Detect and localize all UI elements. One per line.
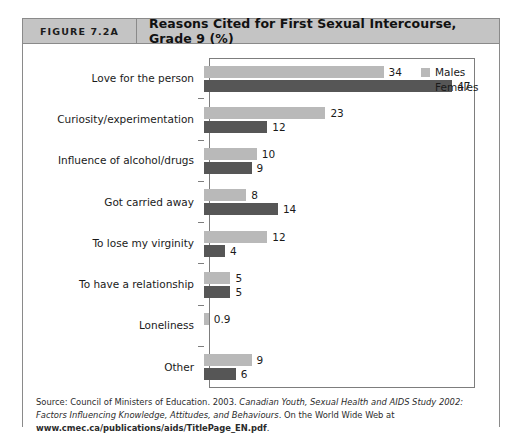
- bar-value-label: 0.9: [214, 313, 231, 325]
- bar-females: 14: [204, 203, 296, 215]
- legend-label-females: Females: [435, 81, 478, 93]
- bar-row: To have a relationship55: [23, 264, 501, 305]
- bar-males: 8: [204, 189, 258, 201]
- bar-males: 34: [204, 66, 402, 78]
- bar-females: 5: [204, 286, 242, 298]
- bar-rect: [204, 189, 246, 201]
- category-label: Influence of alcohol/drugs: [23, 155, 203, 167]
- bar-value-label: 8: [251, 189, 258, 201]
- figure-body: Love for the person3447Curiosity/experim…: [23, 44, 499, 427]
- category-label: Love for the person: [23, 73, 203, 85]
- bar-value-label: 9: [257, 354, 264, 366]
- bar-row: Other96: [23, 347, 501, 388]
- chart-legend: Males Females: [421, 66, 491, 96]
- bar-males: 5: [204, 272, 242, 284]
- source-suffix: .: [267, 423, 270, 433]
- figure-header: FIGURE 7.2A Reasons Cited for First Sexu…: [23, 19, 499, 44]
- legend-label-males: Males: [435, 66, 465, 78]
- bar-males: 9: [204, 354, 263, 366]
- bar-females: 12: [204, 121, 286, 133]
- category-label: Other: [23, 362, 203, 374]
- source-prefix: Source: Council of Ministers of Educatio…: [36, 397, 239, 407]
- bar-group: 96: [203, 347, 471, 388]
- bar-group: 814: [203, 182, 471, 223]
- bar-row: To lose my virginity124: [23, 223, 501, 264]
- bar-group: 109: [203, 141, 471, 182]
- bar-females: 6: [204, 368, 247, 380]
- bar-value-label: 10: [262, 148, 275, 160]
- bar-row: Got carried away814: [23, 182, 501, 223]
- category-label: To have a relationship: [23, 279, 203, 291]
- bar-rect: [204, 66, 384, 78]
- legend-swatch-males-icon: [421, 68, 430, 77]
- bar-group: 2312: [203, 99, 471, 140]
- bar-group: 55: [203, 264, 471, 305]
- bar-males: 10: [204, 148, 275, 160]
- bar-value-label: 5: [235, 272, 242, 284]
- bar-value-label: 23: [330, 107, 343, 119]
- bar-rect: [204, 107, 325, 119]
- bar-rect: [204, 162, 252, 174]
- category-label: Loneliness: [23, 320, 203, 332]
- legend-item-females: Females: [421, 81, 491, 93]
- bar-rect: [204, 231, 267, 243]
- bar-males: 12: [204, 231, 286, 243]
- bar-rect: [204, 286, 230, 298]
- bar-females: 9: [204, 162, 263, 174]
- bar-rect: [204, 148, 257, 160]
- bar-value-label: 6: [241, 368, 248, 380]
- bar-value-label: 34: [389, 66, 402, 78]
- category-label: To lose my virginity: [23, 238, 203, 250]
- bar-value-label: 5: [235, 286, 242, 298]
- bar-females: 4: [204, 245, 237, 257]
- bar-males: 0.9: [204, 313, 230, 325]
- legend-item-males: Males: [421, 66, 491, 78]
- bar-rect: [204, 354, 252, 366]
- bar-value-label: 12: [272, 121, 285, 133]
- bar-rect: [204, 245, 225, 257]
- bar-rect: [204, 313, 209, 325]
- bar-value-label: 4: [230, 245, 237, 257]
- figure-number-label: FIGURE 7.2A: [23, 19, 137, 43]
- source-url: www.cmec.ca/publications/aids/TitlePage_…: [36, 423, 267, 433]
- bar-rect: [204, 121, 267, 133]
- bar-rect: [204, 368, 236, 380]
- source-note: Source: Council of Ministers of Educatio…: [36, 396, 488, 435]
- legend-swatch-females-icon: [421, 83, 430, 92]
- bar-rect: [204, 272, 230, 284]
- source-middle: . On the World Wide Web at: [279, 410, 395, 420]
- figure-card: FIGURE 7.2A Reasons Cited for First Sexu…: [22, 18, 500, 427]
- bar-group: 124: [203, 223, 471, 264]
- bar-row: Loneliness0.9: [23, 306, 501, 347]
- bar-group: 0.9: [203, 306, 471, 347]
- figure-title: Reasons Cited for First Sexual Intercour…: [137, 19, 499, 43]
- bar-value-label: 9: [257, 162, 264, 174]
- bar-rect: [204, 80, 452, 92]
- bar-males: 23: [204, 107, 344, 119]
- category-label: Curiosity/experimentation: [23, 114, 203, 126]
- bar-rect: [204, 203, 278, 215]
- bar-value-label: 14: [283, 203, 296, 215]
- bar-row: Influence of alcohol/drugs109: [23, 141, 501, 182]
- bar-rows: Love for the person3447Curiosity/experim…: [23, 58, 501, 388]
- category-label: Got carried away: [23, 197, 203, 209]
- bar-row: Curiosity/experimentation2312: [23, 99, 501, 140]
- bar-value-label: 12: [272, 231, 285, 243]
